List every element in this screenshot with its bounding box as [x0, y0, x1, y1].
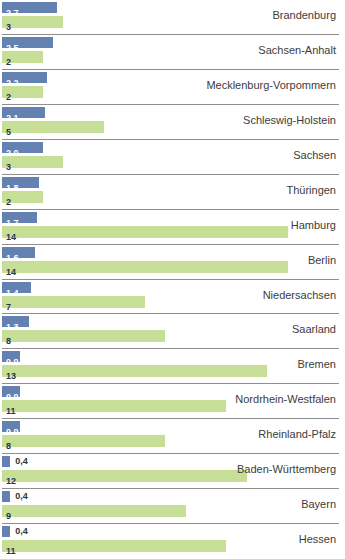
blue-bar: 2,7: [2, 2, 57, 13]
category-label: Baden-Württemberg: [237, 463, 336, 475]
blue-bar: 0,9: [2, 351, 20, 362]
chart-row: 0,4 9 Bayern: [0, 489, 345, 524]
green-bar: 8: [2, 435, 165, 447]
green-bar: 7: [2, 296, 145, 308]
category-label: Saarland: [292, 323, 336, 335]
green-bar: 3: [2, 156, 63, 168]
category-label: Brandenburg: [272, 9, 336, 21]
blue-bar: 1,6: [2, 247, 35, 258]
category-label: Mecklenburg-Vorpommern: [206, 79, 336, 91]
green-bar: 2: [2, 191, 43, 203]
chart-row: 1,3 8 Saarland: [0, 314, 345, 349]
green-bar-value: 9: [2, 510, 11, 522]
blue-bar: 1,7: [2, 212, 37, 223]
green-bar-value: 3: [2, 21, 11, 33]
category-label: Hamburg: [291, 219, 336, 231]
green-bar-value: 14: [2, 231, 16, 243]
category-label: Bremen: [297, 358, 336, 370]
chart-row: 1,4 7 Niedersachsen: [0, 280, 345, 315]
blue-bar-value-outside: 0,4: [15, 456, 28, 467]
blue-bar: 2,1: [2, 107, 45, 118]
green-bar: 12: [2, 470, 247, 482]
chart-row: 1,8 2 Thüringen: [0, 175, 345, 210]
green-bar: 13: [2, 365, 267, 377]
chart-row: 0,4 12 Baden-Württemberg: [0, 454, 345, 489]
green-bar-value: 11: [2, 545, 16, 557]
chart-row: 1,6 14 Berlin: [0, 245, 345, 280]
category-label: Schleswig-Holstein: [243, 114, 336, 126]
chart-row: 1,7 14 Hamburg: [0, 210, 345, 245]
blue-bar: [2, 456, 10, 467]
category-label: Nordrhein-Westfalen: [235, 393, 336, 405]
green-bar-value: 12: [2, 475, 16, 487]
category-label: Thüringen: [286, 184, 336, 196]
green-bar-value: 11: [2, 405, 16, 417]
category-label: Sachsen: [293, 149, 336, 161]
green-bar-value: 3: [2, 161, 11, 173]
blue-bar: [2, 526, 10, 537]
green-bar: 2: [2, 86, 43, 98]
green-bar-value: 8: [2, 335, 11, 347]
category-label: Hessen: [299, 533, 336, 545]
green-bar: 9: [2, 505, 186, 517]
category-label: Sachsen-Anhalt: [258, 44, 336, 56]
green-bar-value: 8: [2, 440, 11, 452]
chart-row: 2,5 2 Sachsen-Anhalt: [0, 35, 345, 70]
category-label: Bayern: [301, 498, 336, 510]
blue-bar: [2, 491, 10, 502]
bar-chart: 2,7 3 Brandenburg 2,5 2 Sachsen-Anhalt 2…: [0, 0, 345, 559]
chart-row: 0,9 8 Rheinland-Pfalz: [0, 419, 345, 454]
green-bar-value: 14: [2, 266, 16, 278]
blue-bar: 0,9: [2, 386, 20, 397]
chart-row: 2,0 3 Sachsen: [0, 140, 345, 175]
green-bar-value: 5: [2, 126, 11, 138]
green-bar-value: 2: [2, 56, 11, 68]
blue-bar-value-outside: 0,4: [15, 491, 28, 502]
chart-row: 2,2 2 Mecklenburg-Vorpommern: [0, 70, 345, 105]
blue-bar: 2,2: [2, 72, 47, 83]
blue-bar: 2,0: [2, 142, 43, 153]
blue-bar: 0,9: [2, 421, 20, 432]
blue-bar-value-outside: 0,4: [15, 526, 28, 537]
green-bar: 5: [2, 121, 104, 133]
chart-row: 2,1 5 Schleswig-Holstein: [0, 105, 345, 140]
blue-bar: 2,5: [2, 37, 53, 48]
green-bar: 11: [2, 400, 226, 412]
blue-bar: 1,4: [2, 282, 31, 293]
green-bar: 14: [2, 261, 288, 273]
category-label: Rheinland-Pfalz: [258, 428, 336, 440]
green-bar-value: 2: [2, 196, 11, 208]
blue-bar: 1,8: [2, 177, 39, 188]
category-label: Berlin: [308, 254, 336, 266]
green-bar: 2: [2, 51, 43, 63]
green-bar-value: 7: [2, 301, 11, 313]
blue-bar: 1,3: [2, 316, 29, 327]
green-bar: 3: [2, 16, 63, 28]
category-label: Niedersachsen: [263, 289, 336, 301]
green-bar-value: 13: [2, 370, 16, 382]
green-bar-value: 2: [2, 91, 11, 103]
chart-row: 2,7 3 Brandenburg: [0, 0, 345, 35]
chart-row: 0,4 11 Hessen: [0, 524, 345, 559]
green-bar: 8: [2, 330, 165, 342]
green-bar: 11: [2, 540, 226, 552]
chart-row: 0,9 13 Bremen: [0, 349, 345, 384]
chart-row: 0,9 11 Nordrhein-Westfalen: [0, 384, 345, 419]
green-bar: 14: [2, 226, 288, 238]
